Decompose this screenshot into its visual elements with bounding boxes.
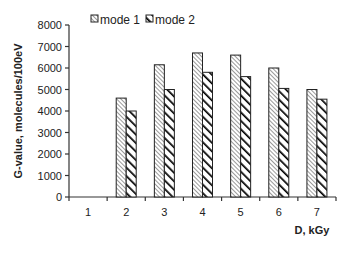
bar-chart: 010002000300040005000600070008000 123456… — [0, 0, 351, 256]
x-tick-label: 6 — [276, 206, 282, 218]
legend-label-mode-1: mode 1 — [100, 13, 140, 27]
legend-swatch-mode-2 — [146, 15, 153, 22]
y-tick-label: 1000 — [38, 170, 62, 182]
bar-mode-2-d6 — [279, 88, 289, 197]
bar-mode-1-d4 — [193, 53, 203, 197]
x-tick-label: 5 — [238, 206, 244, 218]
y-tick-label: 0 — [56, 191, 62, 203]
bar-mode-1-d5 — [231, 55, 241, 197]
x-tick-label: 1 — [85, 206, 91, 218]
y-tick-label: 6000 — [38, 62, 62, 74]
bar-mode-2-d7 — [317, 99, 327, 197]
legend-label-mode-2: mode 2 — [155, 13, 195, 27]
y-tick-label: 5000 — [38, 84, 62, 96]
bar-mode-1-d2 — [116, 98, 126, 197]
bar-mode-1-d3 — [154, 65, 164, 197]
bar-mode-2-d3 — [164, 90, 174, 198]
y-tick-label: 4000 — [38, 105, 62, 117]
y-axis-title: G-value, molecules/100eV — [12, 43, 24, 179]
y-tick-label: 7000 — [38, 41, 62, 53]
y-axis: 010002000300040005000600070008000 — [38, 19, 69, 203]
x-axis: 1234567 — [69, 197, 336, 218]
legend-swatch-mode-1 — [91, 15, 98, 22]
x-tick-label: 7 — [314, 206, 320, 218]
x-tick-label: 4 — [199, 206, 205, 218]
x-axis-title: D, kGy — [295, 224, 331, 236]
x-tick-label: 3 — [161, 206, 167, 218]
bar-mode-1-d6 — [269, 68, 279, 197]
y-tick-label: 2000 — [38, 148, 62, 160]
y-tick-label: 8000 — [38, 19, 62, 31]
bar-mode-2-d4 — [203, 72, 213, 197]
x-tick-label: 2 — [123, 206, 129, 218]
bar-mode-1-d7 — [307, 90, 317, 198]
bar-mode-2-d5 — [241, 77, 251, 197]
bar-mode-2-d2 — [126, 111, 136, 197]
y-tick-label: 3000 — [38, 127, 62, 139]
legend: mode 1 mode 2 — [91, 13, 195, 27]
bars — [116, 53, 327, 197]
